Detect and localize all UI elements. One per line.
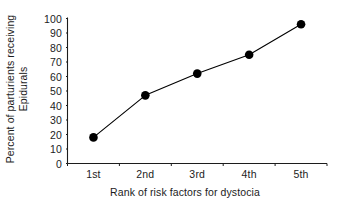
y-axis-tick-label: 50 xyxy=(38,85,62,97)
y-axis-tick-label: 80 xyxy=(38,42,62,54)
x-axis-title: Rank of risk factors for dystocia xyxy=(40,186,330,198)
y-axis-title: Percent of parturients receiving Epidura… xyxy=(4,8,38,170)
y-axis-tick-label: 20 xyxy=(38,129,62,141)
chart-figure: Percent of parturients receiving Epidura… xyxy=(0,0,339,206)
x-axis-tick-label: 2nd xyxy=(125,168,165,180)
x-axis-tick-labels: 1st2nd3rd4th5th xyxy=(66,168,328,184)
data-point-marker xyxy=(245,50,254,59)
y-axis-title-line-2: Epidurals xyxy=(17,8,30,170)
data-point-markers xyxy=(89,20,305,142)
y-axis-tick-label: 30 xyxy=(38,114,62,126)
y-axis-tick-label: 0 xyxy=(38,158,62,170)
y-axis-tick-label: 10 xyxy=(38,143,62,155)
x-axis-tick-label: 5th xyxy=(281,168,321,180)
data-point-marker xyxy=(297,20,306,29)
y-axis-tick-label: 70 xyxy=(38,56,62,68)
x-axis-tick-label: 4th xyxy=(229,168,269,180)
y-axis-tick-label: 40 xyxy=(38,100,62,112)
data-point-marker xyxy=(141,91,150,100)
plot-svg xyxy=(66,12,328,166)
y-axis-title-line-1: Percent of parturients receiving xyxy=(4,8,17,170)
y-axis-tick-labels: 0102030405060708090100 xyxy=(38,0,62,206)
y-axis-tick-label: 100 xyxy=(38,13,62,25)
data-line xyxy=(93,24,301,137)
y-axis-title-container: Percent of parturients receiving Epidura… xyxy=(0,0,40,180)
plot-area xyxy=(66,12,328,166)
x-axis-tick-label: 1st xyxy=(73,168,113,180)
x-axis-tick-label: 3rd xyxy=(177,168,217,180)
axis-group xyxy=(68,18,328,164)
tick-marks-group xyxy=(66,19,327,167)
data-point-marker xyxy=(89,133,98,142)
y-axis-tick-label: 60 xyxy=(38,71,62,83)
data-point-marker xyxy=(193,69,202,78)
y-axis-tick-label: 90 xyxy=(38,27,62,39)
